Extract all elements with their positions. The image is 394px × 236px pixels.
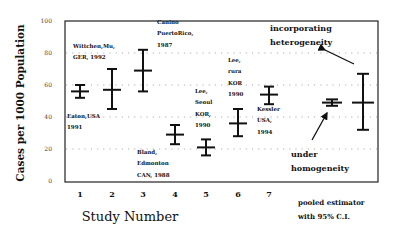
study-annotations: Eaton,USA1991Wittchen,Mu,GER, 1992Canino… <box>67 19 280 178</box>
study-3-annotation: 1987 <box>157 42 172 48</box>
pooled-label-line2: with 95% C.I. <box>297 212 350 221</box>
study-6-annotation: KOR <box>228 80 242 86</box>
y-axis-label: Cases per 1000 Population <box>14 24 26 182</box>
study-4-annotation: Edmonton <box>137 160 169 166</box>
study-5-annotation: Lee, <box>195 88 208 94</box>
study-2-annotation: Wittchen,Mu, <box>72 43 115 49</box>
y-tick-label: 60 <box>44 81 52 88</box>
x-tick-label: 4 <box>172 189 178 199</box>
y-tick-label: 100 <box>41 17 53 24</box>
study-7-annotation: Kessler <box>257 106 280 112</box>
x-tick-label: 5 <box>203 189 209 199</box>
x-axis-ticks: 1234567 <box>77 189 272 199</box>
study-1-annotation: Eaton,USA <box>67 113 101 119</box>
heterogeneity-label-line1: incorporating <box>270 23 332 33</box>
study-6-error-bar <box>229 109 247 136</box>
study-2-error-bar <box>103 69 121 109</box>
study-5-error-bar <box>197 139 215 155</box>
study-1-error-bar <box>71 85 89 98</box>
x-tick-label: 6 <box>235 189 241 199</box>
study-5-annotation: Seoul <box>195 99 212 105</box>
pooled-homogeneity-error-bar <box>322 99 342 105</box>
study-6-annotation: Lee, <box>228 57 241 63</box>
y-axis-ticks: 020406080100 <box>41 17 53 184</box>
y-tick-label: 0 <box>48 177 52 184</box>
x-tick-label: 2 <box>109 189 115 199</box>
error-bars <box>71 50 374 156</box>
study-6-annotation: rura <box>228 68 242 74</box>
study-7-error-bar <box>260 87 278 105</box>
x-tick-label: 1 <box>77 189 83 199</box>
study-3-annotation: PuertoRico, <box>157 30 193 36</box>
study-5-annotation: KOR, <box>195 111 211 117</box>
study-4-error-bar <box>166 125 184 144</box>
heterogeneity-label-line2: heterogeneity <box>270 37 333 47</box>
study-1-annotation: 1991 <box>67 124 82 130</box>
x-axis-label: Study Number <box>82 209 179 224</box>
homogeneity-label-line1: under <box>291 149 318 159</box>
y-tick-label: 20 <box>44 145 52 152</box>
study-6-annotation: 1990 <box>228 91 243 97</box>
study-7-annotation: 1994 <box>257 129 272 135</box>
chart: 020406080100 1234567 Eaton,USA1991Wittch… <box>0 0 394 236</box>
pooled-heterogeneity-error-bar <box>352 74 374 130</box>
study-7-annotation: USA, <box>257 117 272 123</box>
x-tick-label: 7 <box>266 189 272 199</box>
study-4-annotation: Bland, <box>137 149 157 155</box>
homogeneity-label-line2: homogeneity <box>291 163 349 173</box>
y-tick-label: 40 <box>44 113 52 120</box>
y-tick-label: 80 <box>44 49 52 56</box>
pooled-label-line1: pooled estimator <box>298 198 365 207</box>
heterogeneity-arrow <box>325 50 354 64</box>
study-3-error-bar <box>134 50 152 92</box>
x-tick-label: 3 <box>140 189 146 199</box>
study-3-annotation: Canino <box>157 19 179 25</box>
study-2-annotation: GER, 1992 <box>73 54 106 60</box>
study-4-annotation: CAN, 1988 <box>137 172 170 178</box>
study-5-annotation: 1990 <box>195 122 210 128</box>
